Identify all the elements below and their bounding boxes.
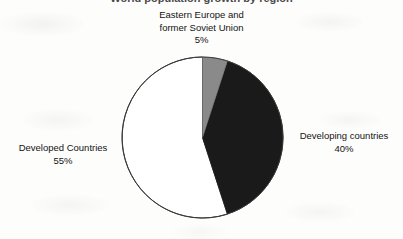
slice-value-developing-countries: 40% bbox=[288, 143, 400, 156]
slice-label-eastern-europe: Eastern Europe and former Soviet Union 5… bbox=[0, 9, 403, 47]
slice-label-eastern-europe-line2: former Soviet Union bbox=[0, 22, 403, 35]
slice-label-developed-countries-line1: Developed Countries bbox=[4, 142, 122, 155]
slice-label-eastern-europe-line1: Eastern Europe and bbox=[0, 9, 403, 22]
slice-label-developing-countries-line1: Developing countries bbox=[288, 130, 400, 143]
slice-label-developing-countries: Developing countries 40% bbox=[288, 130, 400, 155]
slice-value-developed-countries: 55% bbox=[4, 155, 122, 168]
chart-title-cropped: World population growth by region bbox=[0, 0, 403, 7]
page-title: World population growth by region bbox=[0, 0, 403, 4]
slice-value-eastern-europe: 5% bbox=[0, 34, 403, 47]
slice-label-developed-countries: Developed Countries 55% bbox=[4, 142, 122, 167]
